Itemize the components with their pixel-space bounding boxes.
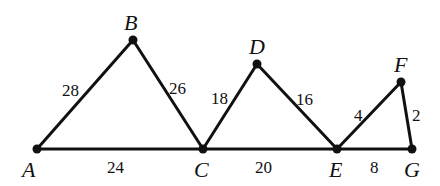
vertex-label-g: G [404, 157, 420, 182]
triangles-diagram: 282624181620428ABCDEFG [0, 0, 440, 186]
segment-length-ce: 20 [255, 158, 272, 177]
segment-length-fg: 2 [412, 106, 421, 125]
vertex-label-d: D [248, 34, 265, 59]
segment-bc [133, 40, 203, 149]
vertex-f-dot [397, 78, 406, 87]
segment-ef [337, 82, 401, 149]
segment-length-bc: 26 [169, 79, 186, 98]
vertex-label-b: B [124, 10, 137, 35]
vertex-d-dot [253, 60, 262, 69]
segment-length-ef: 4 [354, 106, 363, 125]
vertex-label-f: F [393, 52, 408, 77]
vertex-label-a: A [20, 157, 36, 182]
segment-fg [401, 82, 412, 149]
segment-length-de: 16 [296, 90, 313, 109]
segment-length-ac: 24 [107, 158, 125, 177]
segment-length-ab: 28 [62, 81, 79, 100]
vertex-e-dot [333, 145, 342, 154]
vertex-a-dot [33, 145, 42, 154]
labels: 282624181620428ABCDEFG [20, 10, 421, 182]
vertex-c-dot [199, 145, 208, 154]
vertex-label-e: E [328, 157, 343, 182]
vertex-g-dot [408, 145, 417, 154]
segment-length-eg: 8 [370, 158, 379, 177]
segment-ab [37, 40, 133, 149]
vertex-label-c: C [194, 157, 209, 182]
segment-length-cd: 18 [211, 89, 228, 108]
vertex-b-dot [129, 36, 138, 45]
